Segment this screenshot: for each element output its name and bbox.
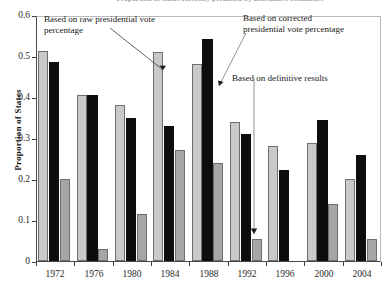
- bar-group: [267, 17, 305, 261]
- annotation-raw-vote: Based on raw presidential vote percentag…: [44, 14, 194, 36]
- bar-1972-series0: [38, 51, 48, 261]
- bar-1996-series1: [279, 170, 289, 261]
- x-tick-mark: [304, 262, 305, 266]
- bar-2004-series1: [356, 155, 366, 261]
- x-tick-label: 1984: [150, 270, 190, 280]
- annotation-definitive-results: Based on definitive results: [232, 73, 372, 84]
- x-tick-mark: [343, 262, 344, 266]
- bar-2004-series2: [367, 239, 377, 261]
- bar-group: [190, 17, 228, 261]
- y-tick-label: 0.3: [8, 134, 30, 144]
- bar-group: [229, 17, 267, 261]
- plot-area: [36, 16, 381, 262]
- bar-group: [305, 17, 343, 261]
- annotation-corrected-vote: Based on corrected presidential vote per…: [243, 13, 378, 35]
- annotation-definitive-results-text: Based on definitive results: [232, 73, 328, 83]
- bar-1988-series1: [202, 39, 212, 261]
- x-tick-label: 1996: [265, 270, 305, 280]
- bar-group: [37, 17, 75, 261]
- annotation-corrected-vote-line2: presidential vote percentage: [243, 24, 344, 34]
- bar-group: [114, 17, 152, 261]
- x-tick-mark: [228, 262, 229, 266]
- annotation-raw-vote-line1: Based on raw presidential vote: [44, 14, 155, 24]
- x-tick-label: 1980: [112, 270, 152, 280]
- annotation-raw-vote-line2: percentage: [44, 25, 83, 35]
- y-axis-title: Proportion of States: [13, 50, 23, 210]
- annotation-corrected-vote-line1: Based on corrected: [243, 13, 312, 23]
- bar-group: [344, 17, 382, 261]
- x-tick-mark: [36, 262, 37, 266]
- bar-1984-series1: [164, 126, 174, 261]
- bar-1976-series0: [77, 95, 87, 261]
- bar-1992-series0: [230, 122, 240, 261]
- bar-1988-series2: [213, 163, 223, 261]
- x-tick-label: 2004: [342, 270, 382, 280]
- x-tick-label: 1988: [189, 270, 229, 280]
- bar-1984-series0: [153, 52, 163, 262]
- bar-1988-series0: [192, 64, 202, 261]
- x-tick-label: 1972: [35, 270, 75, 280]
- y-tick-label: 0.6: [8, 11, 30, 21]
- bar-1976-series1: [87, 95, 97, 261]
- y-tick-label: 0.1: [8, 216, 30, 226]
- bar-group: [152, 17, 190, 261]
- bar-1992-series2: [252, 239, 262, 261]
- x-tick-mark: [74, 262, 75, 266]
- y-tick-label: 0.5: [8, 52, 30, 62]
- y-tick-label: 0.4: [8, 93, 30, 103]
- x-tick-mark: [266, 262, 267, 266]
- bar-1976-series2: [98, 249, 108, 261]
- bar-2000-series0: [307, 143, 317, 261]
- bar-1992-series1: [241, 134, 251, 261]
- bar-chart: Proportion of states correctly predicted…: [0, 0, 384, 286]
- bar-1980-series2: [137, 214, 147, 261]
- bar-1972-series1: [49, 62, 59, 261]
- y-tick-label: 0: [8, 257, 30, 267]
- bar-1984-series2: [175, 150, 185, 261]
- bar-2000-series2: [328, 204, 338, 261]
- bar-group: [75, 17, 113, 261]
- x-tick-label: 2000: [304, 270, 344, 280]
- x-tick-label: 1976: [74, 270, 114, 280]
- x-tick-mark: [113, 262, 114, 266]
- y-tick-label: 0.2: [8, 175, 30, 185]
- bar-1980-series1: [126, 118, 136, 262]
- x-tick-mark: [381, 262, 382, 266]
- bar-2004-series0: [345, 179, 355, 261]
- x-tick-label: 1992: [227, 270, 267, 280]
- bars-layer: [37, 17, 380, 261]
- bar-1972-series2: [60, 179, 70, 261]
- x-tick-mark: [151, 262, 152, 266]
- x-tick-mark: [189, 262, 190, 266]
- chart-title: Proportion of states correctly predicted…: [60, 0, 380, 3]
- bar-2000-series1: [317, 120, 327, 261]
- bar-1996-series0: [268, 146, 278, 261]
- bar-1980-series0: [115, 105, 125, 261]
